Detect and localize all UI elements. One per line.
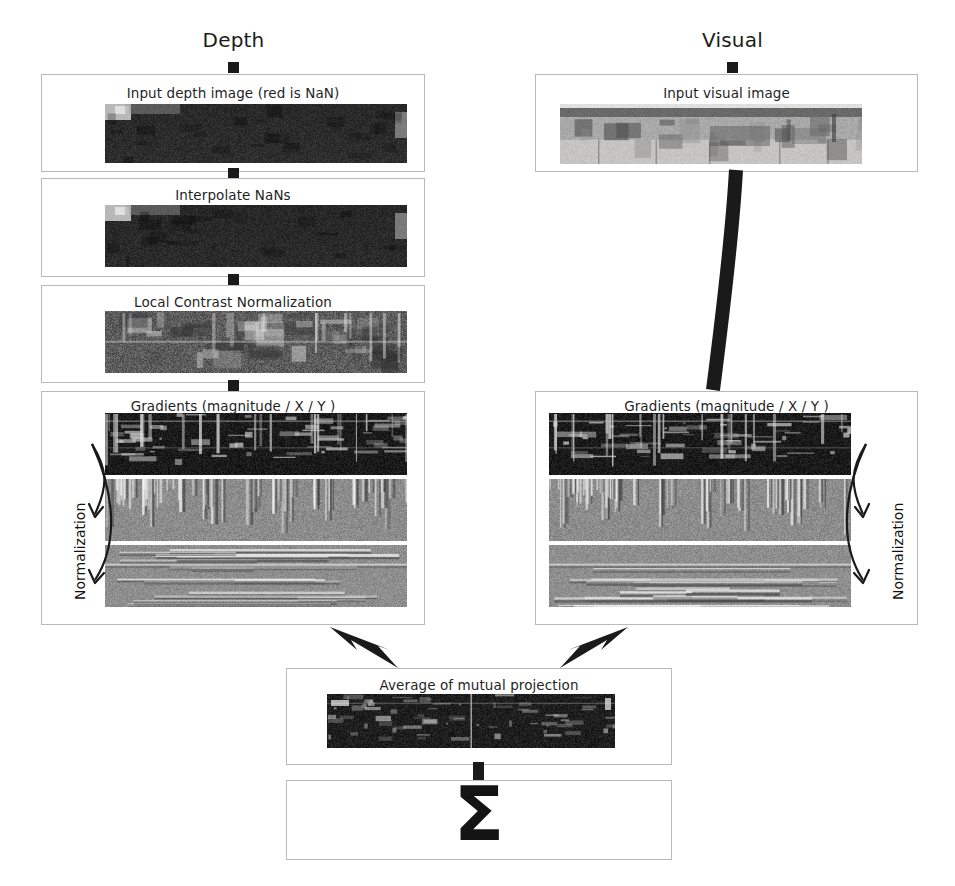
visual-gradient-y-strip [549,545,851,607]
visual-to-average-arrow [560,627,628,668]
visual-image-to-gradients-connector [713,170,736,390]
sigma-symbol: Σ [287,777,671,851]
visual-stage-gradients-label: Gradients (magnitude / X / Y ) [536,398,917,414]
average-projection-label: Average of mutual projection [287,677,671,693]
connector-depth-heading [228,62,239,73]
depth-gradient-y-strip [105,545,407,607]
connector-visual-heading [727,62,738,73]
visual-gradient-magnitude-strip [549,413,851,475]
depth-interpolated-strip [105,205,407,267]
depth-stage-lcn-label: Local Contrast Normalization [42,294,424,310]
column-heading-visual: Visual [660,28,805,52]
visual-raw-strip [560,104,862,164]
depth-stage-gradients-label: Gradients (magnitude / X / Y ) [42,398,424,414]
visual-gradient-x-strip [549,479,851,541]
mutual-projection-strip [327,694,615,748]
depth-normalization-label: Normalization [72,503,88,600]
depth-gradient-x-strip [105,479,407,541]
sum-box[interactable]: Σ [286,780,672,860]
depth-to-average-arrow [330,627,398,668]
diagram-canvas: Depth Visual Input depth image (red is N… [0,0,955,886]
depth-raw-strip [105,104,407,163]
visual-normalization-label: Normalization [890,503,906,600]
column-heading-depth: Depth [161,28,306,52]
depth-stage-interpolate-label: Interpolate NaNs [42,187,424,203]
depth-gradient-magnitude-strip [105,413,407,475]
visual-stage-input-label: Input visual image [536,85,917,101]
depth-stage-input-label: Input depth image (red is NaN) [42,85,424,101]
depth-lcn-strip [105,311,407,373]
